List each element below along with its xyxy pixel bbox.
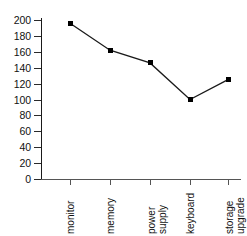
- data-point-marker: [188, 97, 193, 102]
- data-point-marker: [148, 60, 153, 65]
- series-line-path: [0, 0, 247, 236]
- data-point-marker: [108, 48, 113, 53]
- data-point-marker: [226, 77, 231, 82]
- line-chart: 200180160140120100806040200 monitormemor…: [0, 0, 247, 236]
- data-point-marker: [68, 21, 73, 26]
